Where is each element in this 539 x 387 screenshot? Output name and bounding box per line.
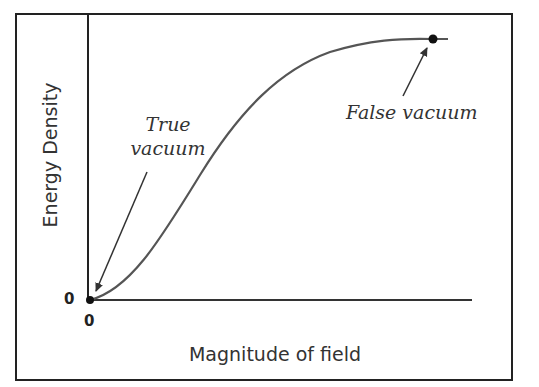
false-vacuum-point: [429, 35, 438, 44]
false-vacuum-label: False vacuum: [346, 100, 478, 124]
false-vacuum-arrow: [403, 48, 427, 96]
x-axis-label: Magnitude of field: [189, 343, 361, 365]
energy-curve: [90, 39, 448, 300]
energy-density-diagram: [0, 0, 539, 387]
y-axis-label: Energy Density: [39, 83, 61, 228]
true-vacuum-label-line2: vacuum: [108, 136, 228, 160]
true-vacuum-point: [86, 296, 94, 304]
true-vacuum-label-line1: True: [108, 112, 228, 136]
y-zero-tick: 0: [64, 290, 74, 308]
true-vacuum-label: True vacuum: [108, 112, 228, 160]
x-zero-tick: 0: [84, 312, 94, 330]
true-vacuum-arrow: [96, 172, 147, 291]
